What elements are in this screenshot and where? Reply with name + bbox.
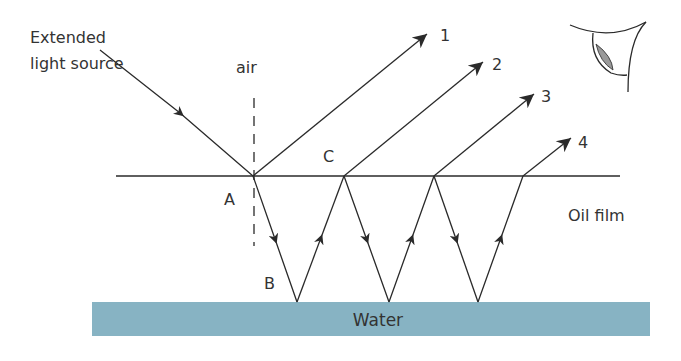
source-label-line1: Extended xyxy=(30,28,106,47)
oil-film-label: Oil film xyxy=(568,206,625,225)
point-c-label: C xyxy=(323,147,334,166)
ray-1-label: 1 xyxy=(440,26,450,45)
film-rays xyxy=(253,176,523,302)
eye-icon xyxy=(570,22,646,92)
thin-film-interference-diagram: Water 1 2 3 4 Extended light source air … xyxy=(0,0,681,361)
ray-2 xyxy=(344,62,483,176)
ray-2-label: 2 xyxy=(492,55,502,74)
ray-3 xyxy=(434,94,534,176)
ray-4 xyxy=(523,138,571,176)
point-a-label: A xyxy=(224,190,235,209)
ray-4-label: 4 xyxy=(578,133,588,152)
point-b-label: B xyxy=(264,274,275,293)
source-label-line2: light source xyxy=(30,54,124,73)
outgoing-rays xyxy=(253,34,571,176)
air-label: air xyxy=(236,58,257,77)
water-label: Water xyxy=(353,310,403,330)
ray-3-label: 3 xyxy=(541,87,551,106)
ray-1 xyxy=(253,34,427,176)
